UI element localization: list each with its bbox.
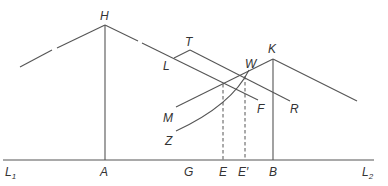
label-h: H [100,9,109,23]
label-z: Z [164,134,173,148]
label-k: K [268,42,277,56]
line-h-left-segment-1 [20,50,52,67]
label-g: G [184,165,193,179]
label-l1: L1 [5,165,16,181]
label-e: E [219,165,228,179]
line-l-t [174,50,190,58]
line-m-k [176,59,273,107]
line-h-left-segment-2 [57,25,105,48]
line-k-right [273,59,357,101]
curve-z-w [176,70,249,131]
line-h-right-segment-1 [105,25,138,41]
label-m: M [163,111,173,125]
label-w: W [245,57,258,71]
label-b: B [269,165,277,179]
line-h-right-segment-2 [142,43,258,100]
label-r: R [290,102,299,116]
label-e-prime: E′ [238,165,249,179]
label-l2: L2 [362,165,374,181]
label-t: T [185,35,194,49]
label-f: F [257,102,265,116]
label-l: L [163,59,170,73]
geometry-diagram: H T L K W M F R Z L1 A G E E′ B L2 [0,0,388,186]
label-a: A [99,165,108,179]
